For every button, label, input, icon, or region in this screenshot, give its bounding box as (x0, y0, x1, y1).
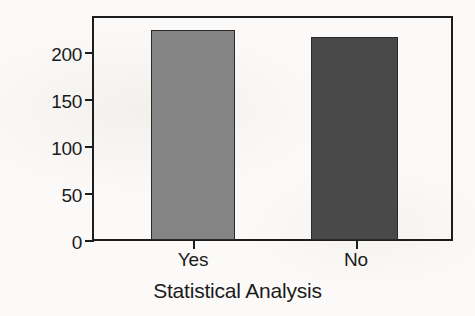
x-tick-mark-no (356, 241, 358, 249)
x-tick-mark-yes (193, 241, 195, 249)
y-tick-label-200: 200 (38, 45, 82, 64)
x-tick-label-no: No (344, 250, 368, 269)
x-tick-label-yes: Yes (178, 250, 208, 269)
y-axis-tick-labels: 0 50 100 150 200 (38, 0, 82, 316)
bar-yes (151, 30, 235, 240)
y-tick-label-0: 0 (38, 233, 82, 252)
chart-figure: Number of Articles 0 50 100 150 200 Yes … (0, 0, 475, 316)
plot-area (94, 18, 451, 240)
y-tick-label-50: 50 (38, 186, 82, 205)
y-tick-label-150: 150 (38, 92, 82, 111)
y-tick-label-100: 100 (38, 139, 82, 158)
bar-no (311, 37, 398, 241)
x-axis-title: Statistical Analysis (0, 279, 475, 303)
